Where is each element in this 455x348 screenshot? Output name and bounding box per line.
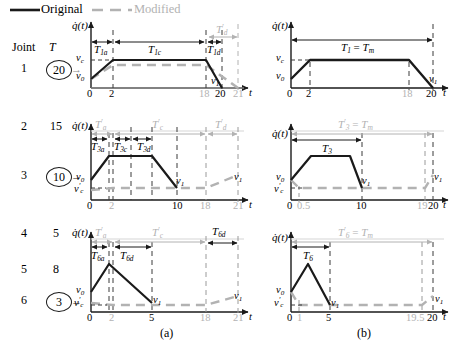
yaxis-label-row3-b: q̇(t): [272, 232, 288, 243]
xaxis-label-row1-a: t: [249, 88, 252, 99]
xaxis-label-row3-b: t: [443, 312, 446, 323]
ytick-row3b-vcp: v′c: [274, 297, 284, 310]
span-label-row2a-gray-c: T′c: [152, 119, 163, 131]
span-label-row1a-2: T1d: [207, 44, 221, 56]
plot-row3-a: [91, 232, 248, 314]
xtick-row2a-10: 10: [172, 201, 183, 212]
span-label-row2b-0: T3: [322, 143, 332, 155]
plot-row1-b: [291, 22, 448, 90]
ytick-row1b-vc: vc: [276, 53, 284, 65]
yaxis-label-row3-a: q̇(t): [72, 227, 88, 238]
caption-b: (b): [357, 327, 371, 339]
xtick-row3a-21: 21: [233, 313, 244, 324]
plot-row2-b: [291, 124, 448, 202]
xtick-row2a-18: 18: [200, 201, 211, 212]
joint-time-6: 3: [46, 292, 72, 312]
table-header-joint: Joint: [12, 41, 35, 53]
ytick-row1a-v0: v0: [76, 71, 84, 83]
xtick-row2a-21: 21: [233, 201, 244, 212]
span-label-row3b-gray: T′6 = Tm: [338, 227, 373, 239]
yaxis-label-row2-a: q̇(t): [72, 120, 88, 131]
ytick-row3a-vcp: v′c: [74, 297, 84, 310]
point-label-row3a-v1b: v1: [234, 291, 242, 303]
ytick-row1b-v0: v0: [276, 71, 284, 83]
joint-time-5: 8: [53, 263, 59, 275]
point-label-row3a-v1: v1: [153, 295, 161, 307]
ytick-row1a-vc: vc: [76, 53, 84, 65]
caption-a: (a): [160, 327, 173, 339]
joint-index-3: 3: [21, 169, 27, 181]
span-label-row3b-0: T6: [303, 250, 313, 262]
joint-time-2: 15: [50, 120, 62, 132]
yaxis-label-row1-b: q̇(t): [272, 20, 288, 31]
plot-row3-b: [291, 232, 448, 314]
ytick-row2b-vcp: v′c: [274, 183, 284, 196]
xtick-row1b-2: 2: [306, 89, 311, 100]
span-label-row1b-0: T1 = Tm: [341, 42, 374, 54]
xtick-row3b-5: 5: [326, 313, 331, 324]
xaxis-label-row2-b: t: [443, 200, 446, 211]
span-label-row2a-1: T3c: [114, 141, 127, 153]
xtick-row2a-0: 0: [87, 201, 92, 212]
xaxis-label-row1-b: t: [443, 88, 446, 99]
joint-time-1: 20: [46, 60, 72, 80]
ytick-row2a-vcp: v′c: [74, 183, 84, 196]
span-label-row2a-gray-a: T′a: [95, 119, 107, 131]
xtick-row3b-195: 19.5: [406, 313, 424, 324]
xtick-row2b-10: 10: [356, 201, 367, 212]
xtick-row1b-20: 20: [426, 89, 437, 100]
xtick-row1a-18: 18: [199, 89, 210, 100]
xtick-row2b-20: 20: [428, 201, 439, 212]
joint-time-3: 10: [46, 167, 72, 187]
span-label-row2b-gray: T′3 = Tm: [338, 119, 373, 131]
joint-index-1: 1: [21, 62, 27, 74]
xaxis-label-row2-a: t: [249, 200, 252, 211]
yaxis-label-row1-a: q̇(t): [72, 20, 88, 31]
xtick-row3a-0: 0: [87, 313, 92, 324]
span-label-row3a-0: T6a: [91, 250, 105, 262]
span-label-row2a-gray-d: T′d: [215, 119, 227, 131]
xtick-row3a-18: 18: [200, 313, 211, 324]
xtick-row1a-20: 20: [215, 89, 226, 100]
point-label-row1a-v1: v1: [211, 76, 219, 88]
xtick-row3b-0: 0: [287, 313, 292, 324]
point-label-row2b-v1b: v1: [434, 172, 442, 184]
span-label-row3a-3: T6d: [212, 226, 226, 238]
point-label-row2a-v1b: v1: [234, 172, 242, 184]
span-label-row2a-0: T3a: [91, 141, 105, 153]
joint-index-6: 6: [21, 294, 27, 306]
xtick-row1a-21: 21: [233, 89, 244, 100]
xtick-row1b-0: 0: [287, 89, 292, 100]
span-label-row2a-2: T3d: [137, 141, 151, 153]
legend-original-label: Original: [41, 3, 83, 16]
joint-index-2: 2: [21, 120, 27, 132]
xtick-row3a-5: 5: [149, 313, 154, 324]
xtick-row2b-05: 0.5: [297, 201, 310, 212]
xtick-row1a-0: 0: [87, 89, 92, 100]
point-label-row2b-v1: v1: [362, 176, 370, 188]
xtick-row3b-20: 20: [427, 313, 438, 324]
yaxis-label-row2-b: q̇(t): [272, 128, 288, 139]
joint-index-4: 4: [21, 227, 27, 239]
span-label-row1a-3: T′d: [216, 24, 228, 36]
point-label-row3b-v1: v1: [331, 298, 339, 310]
span-label-row3a-gray-c: T′c: [152, 227, 163, 239]
xtick-row3a-2: 2: [109, 313, 114, 324]
span-label-row1a-0: T1a: [94, 44, 108, 56]
xtick-row2b-19: 19: [417, 201, 428, 212]
point-label-row2a-v1: v1: [176, 176, 184, 188]
point-label-row3b-v1b: v1: [435, 294, 443, 306]
xtick-row3b-1: 1: [297, 313, 302, 324]
span-label-row1a-1: T1c: [148, 44, 161, 56]
joint-time-4: 5: [53, 227, 59, 239]
xaxis-label-row3-a: t: [249, 312, 252, 323]
xtick-row2a-2: 2: [109, 201, 114, 212]
legend-modified-label: Modified: [134, 3, 181, 16]
plot-row2-a: [91, 124, 248, 202]
point-label-row1b-v1: v1: [429, 74, 437, 86]
joint-index-5: 5: [21, 263, 27, 275]
xtick-row2b-0: 0: [287, 201, 292, 212]
span-label-row3a-gray-a: T′a: [95, 227, 107, 239]
span-label-row3a-1: T6d: [120, 250, 134, 262]
xtick-row1a-2: 2: [109, 89, 114, 100]
